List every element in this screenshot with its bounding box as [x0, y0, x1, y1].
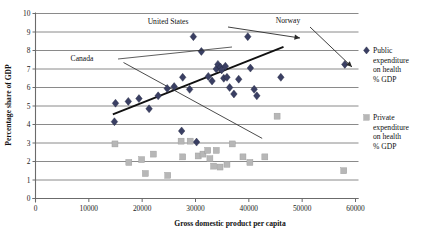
data-point-private: [112, 141, 118, 147]
annotation-label-canada: Canada: [71, 54, 94, 63]
data-point-public: [193, 138, 200, 146]
data-point-private: [217, 164, 223, 170]
data-point-public: [235, 75, 242, 83]
data-point-public: [198, 47, 205, 55]
annotation-leader-united-states: [228, 27, 300, 38]
data-point-private: [229, 141, 235, 147]
series-private-expenditure: [112, 113, 347, 178]
x-tick-label: 30000: [186, 204, 205, 213]
data-point-public: [226, 84, 233, 92]
data-point-public: [178, 127, 185, 135]
gridlines: [36, 14, 359, 199]
x-tick-labels: 0100002000030000400005000060000: [34, 204, 365, 213]
scatter-chart: 0100002000030000400005000060000 01234567…: [0, 0, 426, 234]
data-point-private: [165, 172, 171, 178]
y-tick-label: 2: [27, 157, 31, 166]
y-axis-title: Percentage share of GDP: [4, 64, 13, 146]
data-point-private: [211, 163, 217, 169]
chart-legend: Publicexpenditureon health% GDPPrivateex…: [364, 46, 410, 151]
data-point-private: [187, 138, 193, 144]
data-point-private: [207, 156, 213, 162]
legend-label-line: on health: [373, 132, 401, 141]
data-point-public: [190, 33, 197, 41]
data-point-public: [244, 33, 251, 41]
chart-canvas: 0100002000030000400005000060000 01234567…: [0, 0, 426, 234]
y-tick-label: 1: [27, 176, 31, 185]
data-point-private: [205, 147, 211, 153]
x-tick-label: 40000: [240, 204, 259, 213]
y-tick-label: 7: [27, 65, 31, 74]
data-point-public: [125, 97, 132, 105]
data-point-private: [262, 154, 268, 160]
legend-label-line: expenditure: [373, 123, 409, 132]
data-point-public: [186, 85, 193, 93]
y-tick-label: 3: [27, 139, 31, 148]
axes: [33, 13, 359, 203]
y-tick-label: 8: [27, 46, 31, 55]
annotation-label-norway: Norway: [276, 16, 301, 25]
y-tick-label: 4: [27, 120, 31, 129]
data-point-private: [240, 154, 246, 160]
series-public-expenditure: [111, 33, 348, 146]
x-tick-label: 20000: [133, 204, 152, 213]
data-point-private: [247, 159, 253, 165]
legend-label-line: % GDP: [373, 142, 396, 151]
x-axis-title: Gross domestic product per capita: [174, 219, 286, 228]
y-tick-label: 6: [27, 83, 31, 92]
chart-annotations: United StatesCanadaNorway: [71, 16, 352, 67]
data-point-private: [224, 161, 230, 167]
x-tick-label: 60000: [346, 204, 365, 213]
legend-label-line: expenditure: [373, 56, 409, 65]
falling-trend: [124, 63, 263, 139]
y-tick-label: 10: [23, 9, 31, 18]
data-point-public: [155, 92, 162, 100]
annotation-arrowhead: [294, 35, 300, 40]
data-point-private: [180, 154, 186, 160]
data-point-private: [364, 115, 370, 121]
data-point-private: [142, 171, 148, 177]
data-point-private: [274, 113, 280, 119]
x-tick-label: 0: [34, 204, 38, 213]
annotation-label-united-states: United States: [148, 17, 189, 26]
data-point-public: [247, 64, 254, 72]
x-tick-label: 50000: [293, 204, 312, 213]
data-point-public: [364, 47, 370, 54]
data-point-private: [213, 147, 219, 153]
legend-label-line: Private: [373, 113, 395, 122]
x-tick-label: 10000: [80, 204, 99, 213]
data-point-public: [231, 90, 238, 98]
data-point-public: [278, 73, 285, 81]
annotation-leader-norway: [310, 27, 352, 67]
y-tick-labels: 012345678910: [23, 9, 31, 203]
data-point-private: [139, 157, 145, 163]
legend-label-line: Public: [373, 46, 393, 55]
y-tick-label: 0: [27, 194, 31, 203]
legend-label-line: % GDP: [373, 75, 396, 84]
data-point-private: [150, 151, 156, 157]
annotation-leader-canada: [118, 47, 232, 59]
tick-marks: [33, 14, 356, 203]
data-point-public: [136, 95, 143, 103]
legend-label-line: on health: [373, 65, 401, 74]
y-tick-label: 9: [27, 28, 31, 37]
data-point-private: [178, 138, 184, 144]
y-tick-label: 5: [27, 102, 31, 111]
data-point-private: [126, 159, 132, 165]
data-point-public: [179, 73, 186, 81]
data-point-private: [341, 168, 347, 174]
